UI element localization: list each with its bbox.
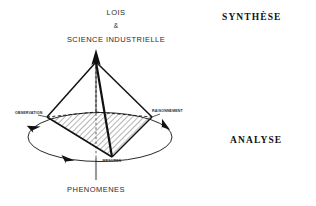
bottom-label-phenomenes: PHENOMENES <box>67 185 125 194</box>
title-line-lois: LOIS <box>107 8 126 17</box>
vertex-label-observation: OBSERVATION <box>15 111 42 115</box>
edge-apex-left <box>47 62 96 117</box>
pyramid-diagram-graphic <box>0 0 316 206</box>
tick-left-vertex <box>38 115 47 117</box>
title-line-ampersand: & <box>114 22 118 29</box>
side-label-analyse: ANALYSE <box>230 135 282 145</box>
title-line-science-industrielle: SCIENCE INDUSTRIELLE <box>67 35 165 44</box>
diagram-canvas: LOIS & SCIENCE INDUSTRIELLE SYNTHÈSE ANA… <box>0 0 316 206</box>
side-label-synthese: SYNTHÈSE <box>222 12 282 22</box>
vertex-label-raisonnement: RAISONNEMENT <box>152 109 183 113</box>
tick-right-vertex <box>152 114 160 117</box>
vertex-label-mesures: MESURES <box>103 159 122 163</box>
